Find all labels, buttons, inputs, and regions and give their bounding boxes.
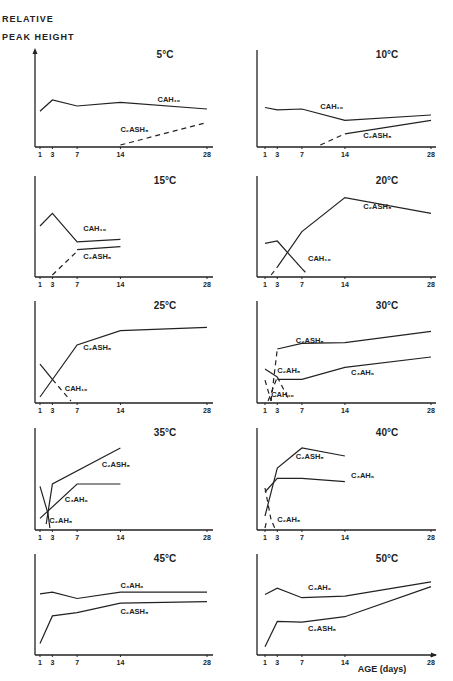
- x-tick-label: 1: [38, 407, 42, 414]
- x-tick-label: 7: [300, 407, 304, 414]
- x-tick-label: 7: [75, 151, 79, 158]
- panel-20c: 137142820°CC₂ASH₈CAH₁₀: [257, 175, 436, 288]
- x-tick-label: 7: [300, 151, 304, 158]
- x-tick-label: 3: [275, 407, 279, 414]
- x-tick-label: 3: [50, 407, 54, 414]
- x-tick-label: 14: [341, 659, 349, 666]
- panel-40c: 137142840°CC₂ASH₈C₃AH₆C₂AH₈: [257, 427, 436, 541]
- series-line-C2ASH8: [271, 267, 277, 275]
- x-tick-label: 7: [300, 281, 304, 288]
- panel-35c: 137142835°CC₂ASH₈C₃AH₆C₂AH₈: [35, 427, 213, 541]
- x-tick-label: 1: [263, 659, 267, 666]
- x-axis-label: AGE (days): [358, 664, 407, 674]
- x-tick-label: 3: [50, 151, 54, 158]
- x-tick-label: 7: [300, 534, 304, 541]
- series-label: C₃AH₆: [351, 368, 374, 377]
- x-tick-label: 3: [275, 534, 279, 541]
- panel-title: 40°C: [376, 427, 398, 438]
- panel-15c: 137142815°CCAH₁₀C₂ASH₈: [35, 175, 213, 288]
- x-tick-label: 14: [341, 151, 349, 158]
- panel-title: 10°C: [376, 49, 398, 60]
- panel-5c: 13714285°CCAH₁₀C₂ASH₈: [33, 48, 214, 158]
- series-label: C₂ASH₈: [308, 624, 337, 633]
- x-tick-label: 14: [117, 534, 125, 541]
- panel-25c: 137142825°CC₂ASH₈CAH₁₀: [35, 300, 213, 414]
- x-tick-label: 28: [427, 534, 435, 541]
- x-tick-label: 14: [117, 151, 125, 158]
- series-line-CAH10: [265, 241, 302, 269]
- series-line-C2ASH8: [320, 134, 345, 145]
- series-line-C2ASH8: [277, 198, 431, 268]
- x-tick-label: 1: [38, 659, 42, 666]
- series-label: C₃AH₆: [120, 581, 143, 590]
- series-label: C₂AH₈: [277, 366, 301, 375]
- series-line-CAH10: [40, 100, 207, 111]
- series-label: C₃AH₆: [308, 583, 331, 592]
- x-tick-label: 28: [427, 151, 435, 158]
- x-tick-label: 7: [75, 534, 79, 541]
- series-label: C₂ASH₈: [83, 252, 112, 261]
- x-tick-label: 14: [341, 281, 349, 288]
- x-tick-label: 28: [203, 281, 211, 288]
- x-tick-label: 7: [75, 659, 79, 666]
- panel-title: 20°C: [376, 175, 398, 186]
- x-tick-label: 28: [203, 534, 211, 541]
- x-tick-label: 1: [38, 534, 42, 541]
- series-label: C₂AH₈: [49, 516, 73, 525]
- series-line-C3AH6: [40, 592, 207, 598]
- x-tick-label: 3: [50, 659, 54, 666]
- figure-panels: 13714285°CCAH₁₀C₂ASH₈137142810°CCAH₁₀C₂A…: [0, 0, 453, 681]
- panel-title: 50°C: [376, 553, 398, 564]
- x-tick-label: 14: [341, 407, 349, 414]
- series-line-C2AH8: [265, 520, 267, 528]
- panel-title: 25°C: [154, 300, 176, 311]
- series-line-CAH10: [302, 269, 308, 275]
- x-tick-label: 7: [300, 659, 304, 666]
- series-label: C₃AH₆: [65, 495, 88, 504]
- x-tick-label: 3: [275, 151, 279, 158]
- x-tick-label: 1: [263, 281, 267, 288]
- series-line-C2ASH8: [52, 251, 77, 275]
- panel-10c: 137142810°CCAH₁₀C₂ASH₈: [257, 49, 436, 158]
- x-tick-label: 1: [263, 534, 267, 541]
- series-label: C₂ASH₈: [83, 343, 112, 352]
- x-tick-label: 1: [38, 151, 42, 158]
- series-line-CAH10: [265, 108, 431, 121]
- series-line-CAH10: [40, 213, 120, 241]
- panel-30c: 137142830°CC₂ASH₈C₃AH₆C₂AH₈CAH₁₀: [257, 300, 436, 414]
- x-tick-label: 3: [275, 659, 279, 666]
- x-tick-label: 14: [341, 534, 349, 541]
- panel-title: 15°C: [154, 175, 176, 186]
- y-axis-arrow-icon: [33, 48, 38, 54]
- series-line-C2AH8: [265, 369, 277, 377]
- series-label: CAH₁₀: [320, 102, 343, 111]
- series-label: CAH₁₀: [308, 254, 331, 263]
- x-tick-label: 7: [75, 407, 79, 414]
- x-tick-label: 7: [75, 281, 79, 288]
- series-label: CAH₁₀: [158, 95, 181, 104]
- x-tick-label: 14: [117, 659, 125, 666]
- panel-title: 35°C: [154, 427, 176, 438]
- series-line-C3AH6: [265, 478, 345, 492]
- series-label: C₂ASH₈: [120, 125, 149, 134]
- series-label: C₂AH₈: [277, 515, 301, 524]
- x-tick-label: 3: [50, 534, 54, 541]
- panel-title: 30°C: [376, 300, 398, 311]
- series-label: C₃AH₆: [351, 471, 374, 480]
- x-tick-label: 3: [50, 281, 54, 288]
- series-label: CAH₁₀: [65, 384, 88, 393]
- series-label: C₂ASH₈: [296, 452, 325, 461]
- x-tick-label: 14: [117, 281, 125, 288]
- x-tick-label: 28: [203, 659, 211, 666]
- x-tick-label: 3: [275, 281, 279, 288]
- x-tick-label: 28: [203, 407, 211, 414]
- series-label: CAH₁₀: [271, 390, 294, 399]
- x-tick-label: 28: [427, 659, 435, 666]
- x-tick-label: 1: [263, 151, 267, 158]
- series-label: C₂ASH₈: [102, 460, 131, 469]
- x-axis-arrow-icon: [431, 653, 437, 658]
- x-tick-label: 28: [427, 407, 435, 414]
- series-label: C₂ASH₈: [363, 131, 392, 140]
- series-line-CAH10: [40, 364, 52, 379]
- series-label: C₂ASH₈: [363, 202, 392, 211]
